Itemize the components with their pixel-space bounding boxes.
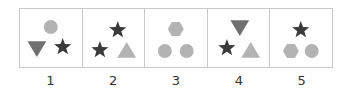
panel-figure: [20, 9, 82, 67]
option-panel-5[interactable]: [270, 9, 332, 67]
option-panel-2[interactable]: [83, 9, 146, 67]
star-icon: [218, 39, 235, 55]
triangle-up-icon: [241, 42, 260, 58]
option-panel-4[interactable]: [208, 9, 271, 67]
circle-icon: [158, 44, 172, 58]
triangle-down-icon: [28, 41, 47, 57]
panel-figure: [145, 9, 207, 67]
panel-figure: [270, 9, 332, 67]
hexagon-icon: [168, 22, 184, 36]
panel-figure: [208, 9, 270, 67]
option-label-1: 1: [19, 71, 82, 91]
circle-icon: [44, 20, 58, 34]
option-panels-strip: [19, 8, 333, 68]
star-icon: [109, 21, 126, 37]
star-icon: [91, 41, 108, 57]
star-icon: [293, 21, 310, 37]
hexagon-icon: [283, 44, 299, 58]
star-icon: [54, 38, 71, 54]
circle-icon: [305, 44, 319, 58]
option-labels: 1 2 3 4 5: [19, 71, 333, 91]
option-label-5: 5: [270, 71, 333, 91]
option-label-3: 3: [145, 71, 208, 91]
option-label-2: 2: [82, 71, 145, 91]
option-label-4: 4: [207, 71, 270, 91]
triangle-down-icon: [230, 20, 249, 36]
circle-icon: [180, 44, 194, 58]
option-panel-1[interactable]: [20, 9, 83, 67]
panel-figure: [83, 9, 145, 67]
option-panel-3[interactable]: [145, 9, 208, 67]
triangle-up-icon: [117, 42, 136, 58]
